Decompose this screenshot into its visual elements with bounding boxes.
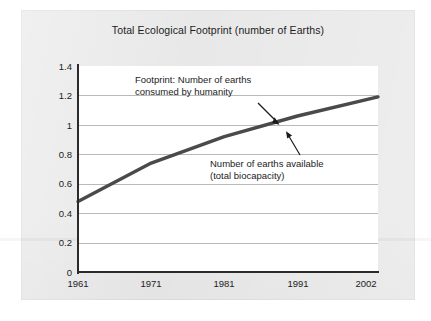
annotation-biocapacity: Number of earths available (total biocap… xyxy=(210,158,324,182)
annotation-biocapacity-line2: (total biocapacity) xyxy=(210,170,284,181)
y-tick-label-0: 0 xyxy=(42,267,72,278)
x-tick-label-1971: 1971 xyxy=(140,278,161,289)
y-tick-label-0.4: 0.4 xyxy=(42,208,72,219)
x-tick-label-2002: 2002 xyxy=(355,278,376,289)
y-axis-labels: 1.4 1.2 1 0.8 0.6 0.4 0.2 0 xyxy=(40,0,72,321)
y-tick-label-1.4: 1.4 xyxy=(42,61,72,72)
x-tick-label-1961: 1961 xyxy=(67,278,88,289)
annotation-footprint-line1: Footprint: Number of earths xyxy=(135,74,251,85)
y-tick-label-1: 1 xyxy=(42,120,72,131)
annotation-footprint-line2: consumed by humanity xyxy=(135,86,233,97)
y-axis-line xyxy=(77,64,79,274)
annotation-footprint: Footprint: Number of earths consumed by … xyxy=(135,74,251,98)
y-tick-label-0.6: 0.6 xyxy=(42,178,72,189)
y-tick-label-1.2: 1.2 xyxy=(42,90,72,101)
chart-title: Total Ecological Footprint (number of Ea… xyxy=(21,24,415,36)
y-tick-label-0.2: 0.2 xyxy=(42,237,72,248)
x-tick-label-1991: 1991 xyxy=(287,278,308,289)
x-tick-label-1981: 1981 xyxy=(213,278,234,289)
annotation-biocapacity-line1: Number of earths available xyxy=(210,158,324,169)
series-footprint-line xyxy=(78,97,378,201)
x-axis-line xyxy=(77,271,379,273)
x-axis-labels: 1961 1971 1981 1991 2002 xyxy=(0,278,431,294)
y-tick-label-0.8: 0.8 xyxy=(42,149,72,160)
